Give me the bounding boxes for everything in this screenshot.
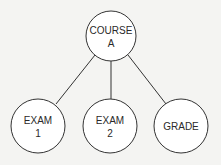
edge-course-exam1 <box>56 55 95 104</box>
node-course: COURSE A <box>86 11 136 61</box>
node-exam1: EXAM 1 <box>11 99 65 153</box>
node-exam1-label-line1: EXAM <box>24 115 52 126</box>
node-exam1-label-line2: 1 <box>35 128 41 139</box>
tree-diagram: COURSE A EXAM 1 EXAM 2 GRADE <box>0 0 221 165</box>
node-grade-label: GRADE <box>163 121 199 132</box>
edges <box>56 55 166 104</box>
node-exam2-label-line1: EXAM <box>96 115 124 126</box>
node-exam2: EXAM 2 <box>83 99 137 153</box>
edge-course-grade <box>128 55 166 104</box>
node-exam2-label-line2: 2 <box>107 128 113 139</box>
node-course-label-line1: COURSE <box>90 25 133 36</box>
node-grade: GRADE <box>154 99 208 153</box>
node-course-label-line2: A <box>108 38 115 49</box>
